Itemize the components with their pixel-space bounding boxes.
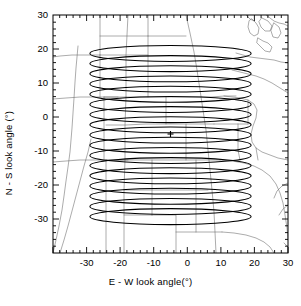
x-axis-title: E - W look angle(°) (0, 276, 301, 287)
footprint-ellipse (90, 86, 251, 102)
footprint-ellipse (90, 96, 251, 112)
footprint-ellipse (90, 56, 251, 72)
footprint-ellipse (90, 45, 251, 61)
x-tick-label: 20 (249, 257, 260, 268)
footprint-ellipse (90, 147, 251, 163)
footprint-ellipse (90, 188, 251, 204)
y-axis-ticks (53, 22, 59, 246)
y-tick-label: -10 (34, 145, 48, 156)
x-axis-ticks (53, 247, 288, 253)
x-tick-label: 10 (216, 257, 227, 268)
x-axis-ticks-top (60, 15, 282, 21)
look-angle-plot: -30 -20 -10 0 10 20 30 -30 -20 -10 0 10 … (0, 0, 301, 306)
y-axis-tick-labels: -30 -20 -10 0 10 20 30 (34, 9, 48, 224)
x-tick-label: -10 (147, 257, 161, 268)
y-axis-title-wrapper: N - S look angle (°) (2, 0, 16, 306)
x-tick-label: 30 (283, 257, 294, 268)
footprint-ellipse (90, 178, 251, 194)
footprint-ellipse (90, 198, 251, 214)
y-axis-ticks-right (282, 22, 288, 246)
footprint-ellipse (90, 209, 251, 225)
footprint-ellipse (90, 76, 251, 92)
y-tick-label: 20 (37, 43, 48, 54)
x-tick-label: -30 (80, 257, 94, 268)
y-tick-label: -20 (34, 179, 48, 190)
x-tick-label: 0 (185, 257, 190, 268)
y-tick-label: 10 (37, 77, 48, 88)
x-tick-label: -20 (113, 257, 127, 268)
footprint-ellipse (90, 107, 251, 123)
footprint-ellipse (90, 168, 251, 184)
figure-canvas: -30 -20 -10 0 10 20 30 -30 -20 -10 0 10 … (0, 0, 301, 306)
y-tick-label: 0 (43, 111, 48, 122)
y-tick-label: 30 (37, 9, 48, 20)
boresight-marker (168, 131, 174, 137)
y-tick-label: -30 (34, 213, 48, 224)
footprint-ellipse (90, 66, 251, 82)
footprint-ellipse (90, 137, 251, 153)
y-axis-title: N - S look angle (°) (2, 0, 16, 306)
x-axis-tick-labels: -30 -20 -10 0 10 20 30 (80, 257, 294, 268)
